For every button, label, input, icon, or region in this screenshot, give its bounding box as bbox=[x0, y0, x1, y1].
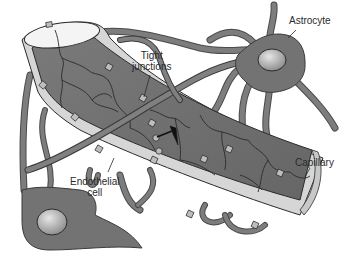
endothelial-leader-line bbox=[108, 158, 114, 172]
astrocyte-label: Astrocyte bbox=[289, 15, 331, 26]
tight-junctions-label: Tight junctions bbox=[132, 50, 171, 72]
endothelial-label-line2: cell bbox=[70, 187, 119, 198]
endothelial-cell-label: Endothelial cell bbox=[70, 176, 119, 198]
astrocyte-label-text: Astrocyte bbox=[289, 15, 331, 26]
tight-junctions-label-line1: Tight bbox=[132, 50, 171, 61]
tight-junctions-label-line2: junctions bbox=[132, 61, 171, 72]
capillary-label-text: Capillary bbox=[295, 157, 334, 168]
astrocyte-nucleus bbox=[258, 49, 286, 71]
diagram-illustration bbox=[0, 0, 353, 265]
astrocyte-nucleus bbox=[37, 209, 67, 235]
endothelial-label-line1: Endothelial bbox=[70, 176, 119, 187]
blood-brain-barrier-diagram: Astrocyte Tight junctions Capillary Endo… bbox=[0, 0, 353, 265]
capillary-label: Capillary bbox=[295, 157, 334, 168]
